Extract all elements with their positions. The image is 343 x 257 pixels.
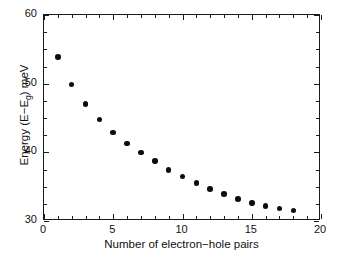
y-tick-major [44,15,49,16]
x-tick-top-minor [279,15,280,18]
x-tick-minor [210,216,211,219]
data-point [138,150,144,156]
y-tick-major [44,221,49,222]
x-tick-label: 15 [231,223,271,235]
y-tick-minor [44,204,47,205]
y-tick-right-major [314,15,319,16]
data-point [69,82,75,88]
x-tick-top-minor [169,15,170,18]
y-tick-right-minor [316,187,319,188]
x-tick-top-minor [238,15,239,18]
x-tick-label: 20 [300,223,340,235]
x-axis-label: Number of electron−hole pairs [43,238,320,251]
data-point [194,180,200,186]
data-point [235,196,241,202]
x-tick-minor [307,216,308,219]
y-tick-minor [44,49,47,50]
y-tick-major [44,84,49,85]
x-tick-top-minor [196,15,197,18]
data-point [263,203,269,209]
data-point [291,208,297,214]
y-axis-label-suffix: ) meV [18,65,30,96]
x-tick-minor [196,216,197,219]
x-tick-minor [224,216,225,219]
x-tick-top-minor [293,15,294,18]
x-tick-top-major [183,15,184,20]
y-tick-right-minor [316,67,319,68]
x-tick-minor [293,216,294,219]
data-point [55,54,61,60]
y-tick-minor [44,101,47,102]
y-tick-right-minor [316,135,319,136]
x-tick-top-major [252,15,253,20]
x-tick-minor [169,216,170,219]
y-tick-minor [44,32,47,33]
data-point [277,206,283,212]
data-point [152,158,158,164]
data-point [110,130,116,136]
y-tick-minor [44,170,47,171]
data-point [249,200,255,206]
x-tick-minor [266,216,267,219]
x-tick-minor [99,216,100,219]
plot-frame [43,14,320,220]
x-tick-top-minor [210,15,211,18]
x-tick-top-major [321,15,322,20]
x-tick-top-minor [224,15,225,18]
y-tick-right-major [314,152,319,153]
x-tick-minor [86,216,87,219]
y-tick-major [44,152,49,153]
x-tick-top-minor [127,15,128,18]
x-tick-top-minor [307,15,308,18]
data-point [166,167,172,173]
x-tick-top-minor [58,15,59,18]
data-point [207,186,213,192]
x-tick-top-minor [266,15,267,18]
data-point [83,101,89,107]
x-tick-label: 10 [162,223,202,235]
data-point [124,141,130,147]
data-point [180,174,186,180]
x-tick-top-minor [72,15,73,18]
y-tick-minor [44,118,47,119]
y-axis-label-subscript: g [23,95,33,100]
x-tick-major [252,214,253,219]
y-axis-label: Energy (E−Eg) meV [18,25,32,205]
chart-figure: 05101520 30405060 Number of electron−hol… [0,0,343,257]
y-tick-right-minor [316,32,319,33]
y-tick-minor [44,135,47,136]
y-tick-minor [44,67,47,68]
y-tick-right-minor [316,170,319,171]
x-tick-top-major [113,15,114,20]
x-tick-minor [58,216,59,219]
x-tick-top-minor [141,15,142,18]
x-tick-minor [141,216,142,219]
x-tick-top-minor [99,15,100,18]
x-tick-minor [238,216,239,219]
x-tick-major [321,214,322,219]
y-tick-right-minor [316,101,319,102]
y-tick-right-minor [316,204,319,205]
data-point [221,191,227,197]
x-tick-minor [127,216,128,219]
y-tick-right-major [314,221,319,222]
y-axis-label-prefix: Energy (E−E [18,100,30,166]
y-tick-right-minor [316,49,319,50]
x-tick-minor [155,216,156,219]
data-points-layer [44,15,319,219]
y-tick-minor [44,187,47,188]
x-tick-major [183,214,184,219]
y-tick-right-minor [316,118,319,119]
y-tick-label: 30 [3,214,37,225]
x-tick-top-minor [86,15,87,18]
x-tick-label: 5 [92,223,132,235]
data-point [97,117,103,123]
x-tick-major [44,214,45,219]
y-tick-right-major [314,84,319,85]
x-tick-minor [72,216,73,219]
x-tick-top-minor [155,15,156,18]
x-tick-major [113,214,114,219]
x-tick-minor [279,216,280,219]
y-tick-label: 60 [3,8,37,19]
